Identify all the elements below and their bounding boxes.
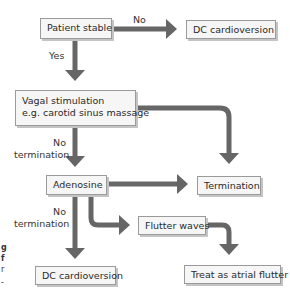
node-patient-stable: Patient stable (40, 18, 112, 39)
node-treat-as-atrial-flutter: Treat as atrial flutter (184, 265, 281, 284)
node-label: Treat as atrial flutter (191, 269, 288, 280)
arrow-vagal-to-termination (136, 108, 229, 159)
edge-label-yes: Yes (49, 50, 64, 62)
node-vagal-stimulation: Vagal stimulation e.g. carotid sinus mas… (15, 90, 136, 126)
edge-label-line2: termination (14, 149, 66, 161)
margin-fragment-3: r (1, 265, 4, 275)
arrow-adenosine-to-flutter (91, 197, 125, 225)
edge-label-line1: No (14, 206, 66, 218)
node-label: DC cardioversion (193, 24, 274, 35)
margin-fragment-4: - (1, 278, 4, 288)
node-flutter-waves: Flutter waves (138, 216, 206, 235)
node-label-line2: e.g. carotid sinus massage (22, 107, 129, 119)
margin-fragment-1: g (1, 243, 7, 253)
node-label: Patient stable (47, 22, 112, 33)
node-label: Flutter waves (145, 220, 209, 231)
node-adenosine: Adenosine (46, 175, 107, 195)
margin-fragment-2: f (1, 254, 4, 264)
node-termination: Termination (197, 176, 261, 195)
edge-label-no-top: No (133, 14, 146, 26)
edge-label-no-termination-1: No termination (14, 137, 66, 161)
node-label-line1: Vagal stimulation (22, 95, 129, 107)
edge-label-line1: No (14, 137, 66, 149)
edge-label-line2: termination (14, 218, 66, 230)
node-label: Adenosine (53, 179, 103, 190)
node-dc-cardioversion-bottom: DC cardioversion (35, 266, 116, 285)
node-dc-cardioversion-top: DC cardioversion (186, 20, 276, 39)
node-label: DC cardioversion (42, 270, 123, 281)
arrow-flutter-to-treat (206, 225, 229, 250)
edge-label-no-termination-2: No termination (14, 206, 66, 230)
node-label: Termination (204, 180, 260, 191)
